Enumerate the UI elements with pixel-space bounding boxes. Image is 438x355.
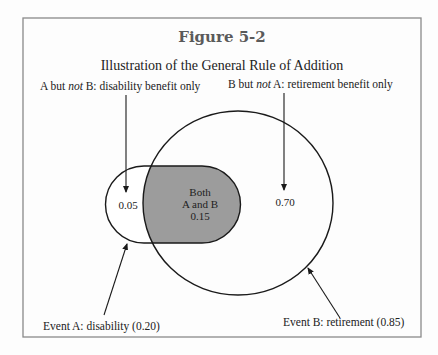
both-line1: Both xyxy=(189,186,211,198)
value-a-only: 0.05 xyxy=(118,199,138,211)
figure-label: Figure 5-2 xyxy=(178,28,266,46)
label-event-a: Event A: disability (0.20) xyxy=(43,320,160,333)
label-a-not-b: A but not B: disability benefit only xyxy=(40,80,201,93)
label-b-not-a: B but not A: retirement benefit only xyxy=(228,78,393,91)
arrow-event-b xyxy=(308,268,340,318)
value-b-only: 0.70 xyxy=(275,196,295,208)
value-both: 0.15 xyxy=(190,210,210,222)
arrow-event-a xyxy=(104,244,127,315)
label-event-b: Event B: retirement (0.85) xyxy=(283,316,405,329)
both-line2: A and B xyxy=(182,198,218,210)
figure-title: Illustration of the General Rule of Addi… xyxy=(101,58,344,73)
venn-diagram-figure: Figure 5-2 Illustration of the General R… xyxy=(0,0,438,355)
